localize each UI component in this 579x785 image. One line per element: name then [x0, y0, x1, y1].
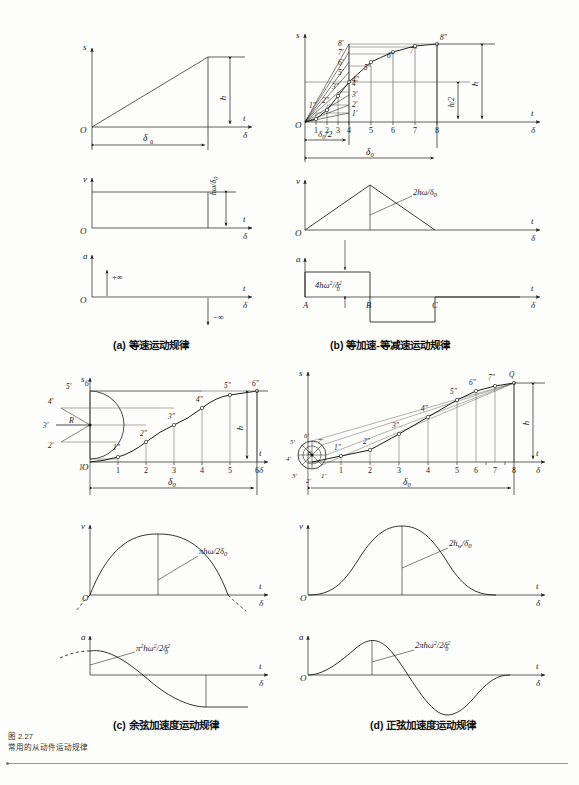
svg-text:6': 6' — [338, 58, 344, 67]
svg-text:O: O — [295, 120, 302, 130]
chart-b-acceleration: a t δ 4hω2/δ20 A B C — [296, 240, 540, 322]
svg-text:δ: δ — [536, 465, 541, 475]
svg-text:s: s — [296, 30, 300, 40]
svg-text:5": 5" — [224, 381, 232, 390]
chart-a-displacement: s t δ O h δ 0 — [80, 42, 252, 150]
svg-text:3": 3" — [331, 82, 340, 91]
svg-text:4: 4 — [200, 466, 204, 475]
chart-c-acceleration: a t δ π2hω2/2δ20 — [58, 632, 268, 707]
chart-b-velocity: v t δ O 2hω/δ0 — [295, 176, 540, 243]
svg-text:hω/δ0: hω/δ0 — [209, 177, 219, 196]
svg-text:6: 6 — [474, 466, 478, 475]
chart-c-displacement: s t δ O R 1' 2' 3' 4' 5' 6' — [42, 374, 268, 495]
svg-text:v: v — [296, 176, 300, 186]
svg-text:R: R — [68, 416, 74, 425]
svg-text:2": 2" — [140, 429, 148, 438]
subcaption-b: (b) 等加速-等减速运动规律 — [330, 337, 450, 352]
svg-text:1": 1" — [334, 443, 342, 452]
svg-text:δ0: δ0 — [403, 477, 411, 488]
svg-text:3: 3 — [397, 466, 401, 475]
svg-text:4hω2/δ20: 4hω2/δ20 — [315, 280, 342, 292]
svg-text:s: s — [83, 42, 87, 52]
svg-text:t: t — [243, 283, 246, 293]
svg-text:2': 2' — [48, 441, 54, 450]
svg-text:6: 6 — [391, 126, 395, 135]
svg-text:3': 3' — [42, 421, 49, 430]
svg-text:5: 5 — [455, 466, 459, 475]
footer-rule — [8, 763, 568, 764]
svg-text:δ: δ — [243, 231, 248, 241]
svg-text:t: t — [531, 283, 534, 293]
svg-text:6': 6' — [85, 379, 91, 388]
svg-text:O: O — [82, 593, 89, 603]
svg-text:7: 7 — [413, 126, 417, 135]
svg-text:2: 2 — [368, 466, 372, 475]
svg-text:C: C — [432, 300, 438, 310]
svg-text:7: 7 — [493, 466, 497, 475]
subcaption-c: (c) 余弦加速度运动规律 — [113, 717, 219, 732]
svg-text:π2hω2/2δ20: π2hω2/2δ20 — [136, 643, 170, 655]
svg-text:2": 2" — [363, 437, 371, 446]
svg-text:5': 5' — [338, 68, 344, 77]
svg-text:7': 7' — [338, 48, 344, 57]
svg-text:3': 3' — [351, 90, 358, 99]
svg-text:δ: δ — [531, 300, 536, 310]
chart-d-acceleration: a t δ O 2πhω2/2δ20 — [299, 632, 545, 715]
svg-text:a: a — [299, 632, 304, 642]
svg-text:a: a — [296, 254, 301, 264]
svg-text:1': 1' — [321, 472, 326, 479]
svg-text:s: s — [299, 368, 303, 378]
svg-text:t: t — [531, 108, 534, 118]
svg-text:δ: δ — [531, 125, 536, 135]
svg-text:δ: δ — [531, 233, 536, 243]
chart-a-acceleration: a t δ O +∞ −∞ — [80, 251, 252, 325]
chart-c-velocity: v t δ O πhω/2δ0 — [76, 521, 268, 611]
svg-text:5': 5' — [66, 382, 72, 391]
svg-text:O: O — [80, 125, 87, 135]
svg-text:3": 3" — [167, 412, 176, 421]
svg-text:3: 3 — [336, 126, 340, 135]
svg-text:δ0/2: δ0/2 — [318, 129, 333, 140]
svg-text:2': 2' — [352, 100, 358, 109]
svg-text:O: O — [80, 295, 87, 305]
svg-text:7": 7" — [488, 373, 496, 382]
svg-text:v: v — [81, 521, 85, 531]
svg-text:h: h — [218, 95, 228, 100]
svg-text:4': 4' — [48, 397, 54, 406]
svg-text:δ: δ — [259, 678, 264, 688]
svg-text:A: A — [302, 300, 309, 310]
svg-text:3: 3 — [172, 466, 176, 475]
chart-d-velocity: v t δ O 2hw/δ0 — [299, 521, 545, 608]
svg-text:h: h — [235, 425, 245, 430]
svg-text:4: 4 — [426, 466, 430, 475]
svg-text:4': 4' — [286, 455, 291, 462]
cam-follower-motion-laws-figure: s t δ O h δ 0 v t δ O hω/δ0 — [0, 0, 579, 785]
svg-text:8: 8 — [308, 449, 312, 456]
svg-text:δ0: δ0 — [168, 477, 176, 488]
svg-text:−∞: −∞ — [213, 312, 224, 322]
svg-text:5': 5' — [290, 438, 295, 445]
svg-text:5": 5" — [364, 63, 372, 72]
svg-text:t: t — [243, 113, 246, 123]
svg-text:6": 6" — [252, 379, 260, 388]
figure-title: 常用的从动件运动规律 — [8, 742, 88, 753]
svg-text:t: t — [536, 661, 539, 671]
chart-b-displacement: s t δ O 12 34 56 78 — [295, 30, 540, 162]
svg-text:t: t — [536, 581, 539, 591]
svg-text:a: a — [81, 632, 86, 642]
svg-text:v: v — [83, 174, 87, 184]
svg-text:δ: δ — [243, 130, 248, 140]
svg-text:t: t — [536, 448, 539, 458]
svg-text:2: 2 — [144, 466, 148, 475]
svg-text:a: a — [83, 251, 88, 261]
subcaption-d: (d) 正弦加速度运动规律 — [370, 717, 476, 732]
svg-text:Q: Q — [509, 370, 515, 379]
svg-text:4": 4" — [196, 395, 204, 404]
chart-d-displacement: s t δ 1' 2' 3' 4' 5' 6' 7' 8 — [286, 368, 545, 495]
svg-text:h: h — [470, 81, 480, 86]
svg-text:O: O — [295, 228, 302, 238]
svg-text:0: 0 — [150, 138, 153, 145]
chart-a-velocity: v t δ O hω/δ0 — [80, 174, 252, 241]
svg-text:8": 8" — [440, 33, 448, 42]
svg-text:5: 5 — [369, 126, 373, 135]
